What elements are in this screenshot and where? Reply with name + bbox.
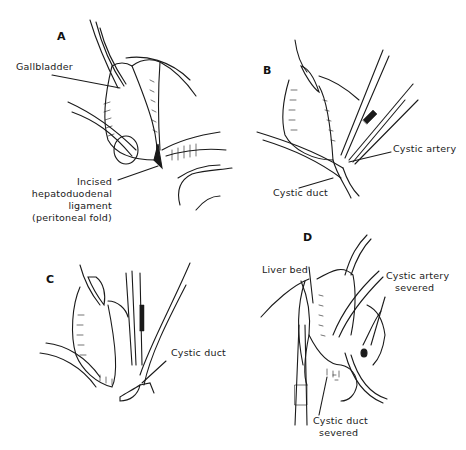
cystic-artery-severed-label-line2: severed	[395, 282, 434, 293]
panel-b-drawing	[233, 0, 466, 225]
panel-d: D	[233, 225, 466, 450]
cystic-artery-label: Cystic artery	[393, 143, 456, 154]
liver-bed-label: Liver bed	[262, 264, 308, 275]
cystic-duct-label: Cystic duct	[273, 187, 328, 198]
incised-label-line2: hepatoduodenal	[32, 188, 112, 199]
cystic-duct-severed-label-line2: severed	[319, 427, 358, 438]
cystic-duct-label-c: Cystic duct	[171, 347, 226, 358]
surgical-illustration-figure: A	[0, 0, 466, 450]
cystic-duct-severed-label-line1: Cystic duct	[313, 415, 368, 426]
cystic-artery-severed-label-line1: Cystic artery	[386, 270, 449, 281]
panel-c: C Cystic duct	[0, 225, 233, 450]
incised-label-line1: Incised	[77, 176, 112, 187]
panel-c-drawing	[0, 225, 233, 450]
incised-label-line3: ligament	[68, 200, 112, 211]
gallbladder-label: Gallbladder	[16, 61, 73, 72]
panel-b: B Cystic a	[233, 0, 466, 225]
panel-a: A	[0, 0, 233, 225]
incised-label-line4: (peritoneal fold)	[32, 212, 112, 223]
